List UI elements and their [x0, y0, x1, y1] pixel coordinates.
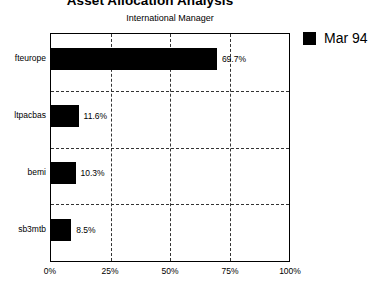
bar-bemi[interactable]: [51, 162, 76, 184]
axis-label-category-1: ltpacbas: [0, 110, 46, 120]
chart-title: Asset Allocation Analysis: [0, 0, 300, 8]
bar-row: 10.3%: [51, 162, 289, 184]
axis-tick-x-3: 75%: [221, 266, 238, 276]
chart-subtitle: International Manager: [50, 13, 290, 24]
axis-label-category-2: bemi: [0, 167, 46, 177]
bar-value-label: 69.7%: [222, 54, 246, 64]
bar-row: 69.7%: [51, 48, 289, 70]
gridline-horizontal-3: [51, 204, 289, 205]
bar-fteurope[interactable]: [51, 48, 217, 70]
gridline-horizontal-2: [51, 148, 289, 149]
gridline-horizontal-1: [51, 91, 289, 92]
bar-row: 11.6%: [51, 105, 289, 127]
bar-ltpacbas[interactable]: [51, 105, 79, 127]
chart-legend: Mar 94: [303, 31, 368, 46]
legend-swatch-icon: [303, 32, 316, 45]
axis-tick-x-0: 0%: [44, 266, 56, 276]
axis-tick-x-4: 100%: [279, 266, 301, 276]
axis-tick-x-1: 25%: [101, 266, 118, 276]
bar-sb3mtb[interactable]: [51, 219, 71, 241]
axis-label-category-3: sb3mtb: [0, 224, 46, 234]
bar-value-label: 11.6%: [84, 111, 107, 121]
axis-label-category-0: fteurope: [0, 53, 46, 63]
bar-value-label: 8.5%: [76, 225, 95, 235]
legend-label: Mar 94: [324, 31, 368, 46]
bar-row: 8.5%: [51, 219, 289, 241]
bar-value-label: 10.3%: [81, 168, 105, 178]
plot-area: 69.7% 11.6% 10.3% 8.5%: [50, 33, 290, 262]
axis-tick-x-2: 50%: [161, 266, 178, 276]
bar-chart: Asset Allocation Analysis International …: [0, 0, 387, 295]
